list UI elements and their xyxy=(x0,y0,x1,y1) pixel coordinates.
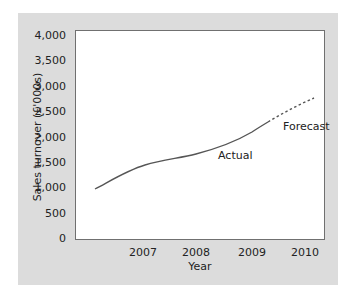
forecast-line xyxy=(268,98,314,122)
forecast-annotation: Forecast xyxy=(283,120,330,133)
chart-lines xyxy=(0,0,353,292)
actual-annotation: Actual xyxy=(218,149,252,162)
